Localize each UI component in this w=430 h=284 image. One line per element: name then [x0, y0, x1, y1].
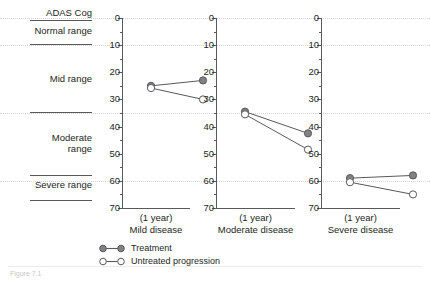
y-tick-65 [319, 194, 323, 195]
y-tick-label-10: 10 [308, 40, 319, 50]
data-point [241, 111, 248, 118]
y-tick-65 [120, 194, 124, 195]
axis-title: ADAS Cog [46, 8, 92, 19]
y-tick-15 [120, 59, 124, 60]
data-point [147, 84, 154, 91]
y-tick-label-20: 20 [109, 68, 120, 78]
y-tick-label-20: 20 [308, 68, 319, 78]
y-tick-label-60: 60 [308, 176, 319, 186]
panel-moderate-disease: 010203040506070(1 year) Moderate disease [190, 18, 295, 208]
y-tick-45 [319, 140, 323, 141]
data-point [409, 191, 416, 198]
y-tick-label-40: 40 [109, 122, 120, 132]
series-line [350, 182, 413, 194]
x-axis-caption: (1 year) Mild disease [122, 212, 190, 235]
y-tick-25 [214, 86, 218, 87]
figure-caption: Figure 7.1 [10, 270, 42, 278]
range-label-severe: Severe range [35, 180, 92, 191]
caption-divider [8, 266, 422, 267]
y-tick-label-10: 10 [109, 40, 120, 50]
legend-label-treatment: Treatment [131, 243, 172, 254]
range-divider-4 [30, 200, 92, 201]
y-tick-label-60: 60 [109, 176, 120, 186]
y-tick-15 [319, 59, 323, 60]
y-tick-5 [120, 32, 124, 33]
range-label-mid: Mid range [50, 74, 92, 85]
y-tick-label-70: 70 [109, 203, 120, 213]
plot-area: 010203040506070 [321, 18, 400, 209]
y-tick-label-70: 70 [203, 203, 214, 213]
y-tick-25 [120, 86, 124, 87]
x-axis-caption: (1 year) Moderate disease [216, 212, 295, 235]
panel-mild-disease: 010203040506070(1 year) Mild disease [96, 18, 190, 208]
series-line [350, 175, 413, 178]
y-tick-15 [214, 59, 218, 60]
y-tick-label-30: 30 [109, 95, 120, 105]
y-tick-45 [120, 140, 124, 141]
y-tick-label-40: 40 [308, 122, 319, 132]
range-label-column: ADAS Cog Normal range Mid range Moderate… [0, 0, 96, 210]
adas-cog-figure: ADAS Cog Normal range Mid range Moderate… [0, 0, 430, 284]
filled-circle-icon [99, 243, 125, 254]
y-tick-5 [319, 32, 323, 33]
y-tick-5 [214, 32, 218, 33]
y-tick-label-30: 30 [203, 95, 214, 105]
data-point [409, 172, 416, 179]
y-tick-label-70: 70 [308, 203, 319, 213]
y-tick-label-0: 0 [115, 13, 120, 23]
range-label-moderate: Moderate range [52, 133, 92, 154]
range-divider-1 [30, 44, 92, 45]
y-tick-65 [214, 194, 218, 195]
y-tick-label-0: 0 [314, 13, 319, 23]
y-tick-25 [319, 86, 323, 87]
y-tick-label-10: 10 [203, 40, 214, 50]
range-label-normal: Normal range [34, 26, 92, 37]
y-tick-label-30: 30 [308, 95, 319, 105]
range-divider-2 [30, 112, 92, 113]
y-tick-35 [120, 113, 124, 114]
plot-area: 010203040506070 [216, 18, 295, 209]
range-divider-3 [30, 175, 92, 176]
range-divider-0 [30, 20, 92, 21]
series-layer [348, 18, 427, 208]
x-axis-caption: (1 year) Severe disease [321, 212, 400, 235]
panel-severe-disease: 010203040506070(1 year) Severe disease [295, 18, 400, 208]
y-tick-label-50: 50 [308, 149, 319, 159]
y-tick-label-20: 20 [203, 68, 214, 78]
y-tick-55 [120, 167, 124, 168]
y-tick-55 [214, 167, 218, 168]
y-tick-label-50: 50 [203, 149, 214, 159]
y-tick-45 [214, 140, 218, 141]
y-tick-35 [214, 113, 218, 114]
y-tick-label-60: 60 [203, 176, 214, 186]
data-point [346, 179, 353, 186]
y-tick-label-50: 50 [109, 149, 120, 159]
y-tick-35 [319, 113, 323, 114]
plot-area: 010203040506070 [122, 18, 190, 209]
y-tick-55 [319, 167, 323, 168]
y-tick-label-40: 40 [203, 122, 214, 132]
y-tick-label-0: 0 [209, 13, 214, 23]
